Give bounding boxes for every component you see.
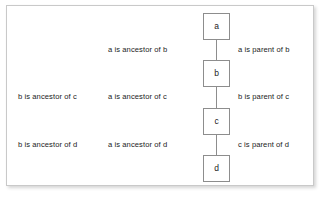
label-ancestor-b-c: b is ancestor of c [18, 93, 77, 101]
node-d-label: d [214, 164, 219, 173]
node-d[interactable]: d [203, 155, 230, 182]
node-b-label: b [214, 69, 219, 78]
label-parent-c-d: c is parent of d [238, 141, 289, 149]
diagram-canvas: a b c d a is ancestor of b a is parent o… [0, 0, 326, 199]
node-c-label: c [214, 117, 218, 126]
label-ancestor-a-c: a is ancestor of c [108, 93, 167, 101]
label-ancestor-a-d: a is ancestor of d [108, 141, 167, 149]
label-parent-b-c: b is parent of c [238, 93, 289, 101]
node-a-label: a [214, 22, 219, 31]
node-a[interactable]: a [203, 13, 230, 40]
label-ancestor-b-d: b is ancestor of d [18, 141, 77, 149]
edge-c-to-d [216, 135, 217, 155]
node-b[interactable]: b [203, 60, 230, 87]
label-parent-a-b: a is parent of b [238, 46, 289, 54]
edge-b-to-c [216, 87, 217, 108]
edge-a-to-b [216, 40, 217, 60]
label-ancestor-a-b: a is ancestor of b [108, 46, 167, 54]
node-c[interactable]: c [203, 108, 230, 135]
